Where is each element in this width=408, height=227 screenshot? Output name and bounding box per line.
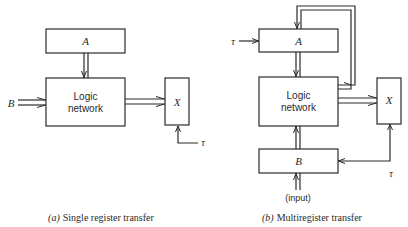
clock-line	[178, 126, 198, 143]
logic-network-label-line1: Logic	[74, 91, 98, 102]
caption-b-prefix: (b)	[262, 212, 274, 224]
clock-bx-line	[338, 124, 390, 161]
caption-a-text: Single register transfer	[63, 212, 155, 223]
caption-b-text: Multiregister transfer	[277, 212, 363, 223]
logic-network-label-line2: network	[281, 102, 317, 113]
register-a-label: A	[81, 35, 89, 47]
input-b-label: B	[8, 97, 15, 109]
logic-network-label-line2: network	[68, 103, 104, 114]
logic-network-block	[46, 78, 125, 126]
caption-a: (a)Single register transfer	[48, 212, 154, 224]
diagram-b-multiregister-transfer: τ A Logic network X B (input)	[231, 2, 401, 224]
register-a-label: A	[294, 35, 302, 47]
register-b-label: B	[295, 155, 302, 167]
register-x-label: X	[173, 96, 182, 108]
register-transfer-figure: A Logic network B X τ (a)Single register…	[0, 0, 408, 227]
logic-network-label-line1: Logic	[287, 90, 311, 101]
caption-a-prefix: (a)	[48, 212, 60, 224]
diagram-a-single-register-transfer: A Logic network B X τ (a)Single register…	[8, 29, 206, 224]
clock-a-tau-label: τ	[231, 36, 235, 47]
input-label: (input)	[285, 193, 311, 203]
clock-tau-label: τ	[201, 137, 205, 148]
register-x-label: X	[385, 94, 394, 106]
clock-bx-tau-label: τ	[389, 168, 393, 179]
caption-b: (b)Multiregister transfer	[262, 212, 363, 224]
